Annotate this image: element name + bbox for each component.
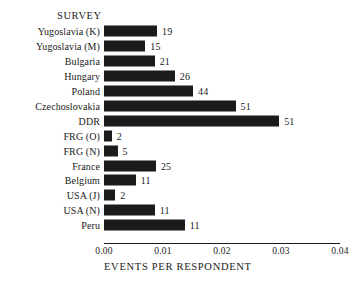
bar-value-label: 11 <box>190 220 200 231</box>
bar-row: Belgium11 <box>0 173 355 188</box>
bar-value-label: 51 <box>241 100 251 111</box>
bar-value-label: 15 <box>150 40 160 51</box>
category-label: Poland <box>72 85 100 96</box>
bar-row: FRG (N)5 <box>0 143 355 158</box>
bar-value-label: 25 <box>161 160 171 171</box>
category-label: Peru <box>81 220 100 231</box>
category-label: USA (J) <box>67 190 100 201</box>
bar-row: USA (J)2 <box>0 188 355 203</box>
bar-row: USA (N)11 <box>0 203 355 218</box>
category-label: Hungary <box>64 70 100 81</box>
category-label: FRG (N) <box>63 145 100 156</box>
x-axis-line <box>104 243 340 244</box>
bar <box>104 190 115 201</box>
bar <box>104 55 155 66</box>
bar-value-label: 19 <box>162 25 172 36</box>
x-tick-label: 0.03 <box>272 246 289 256</box>
bar-row: DDR51 <box>0 113 355 128</box>
bar-value-label: 21 <box>160 55 170 66</box>
bar-value-label: 2 <box>120 190 125 201</box>
bar-value-label: 51 <box>284 115 294 126</box>
bar-row: Hungary26 <box>0 68 355 83</box>
bar <box>104 100 236 111</box>
category-label: Czechoslovakia <box>35 100 100 111</box>
category-label: Yugoslavia (M) <box>36 40 100 51</box>
x-axis-title: EVENTS PER RESPONDENT <box>104 261 252 272</box>
bar <box>104 85 193 96</box>
bar <box>104 145 118 156</box>
category-label: FRG (O) <box>63 130 100 141</box>
bar <box>104 70 175 81</box>
category-label: Yugoslavia (K) <box>38 25 100 36</box>
x-tick-label: 0.01 <box>154 246 171 256</box>
x-tick-label: 0.04 <box>331 246 348 256</box>
bar <box>104 160 156 171</box>
category-label: DDR <box>79 115 100 126</box>
bar <box>104 115 279 126</box>
bar-value-label: 2 <box>117 130 122 141</box>
bar-chart: SURVEY Yugoslavia (K)19Yugoslavia (M)15B… <box>0 0 355 285</box>
bar-row: Peru11 <box>0 218 355 233</box>
bar <box>104 205 155 216</box>
bar <box>104 130 112 141</box>
bar-value-label: 44 <box>198 85 208 96</box>
bar <box>104 40 145 51</box>
bar <box>104 175 136 186</box>
bar <box>104 25 157 36</box>
x-tick-label: 0.02 <box>213 246 230 256</box>
bar-value-label: 26 <box>180 70 190 81</box>
bar <box>104 220 185 231</box>
bar-row: FRG (O)2 <box>0 128 355 143</box>
bar-row: Poland44 <box>0 83 355 98</box>
category-label: USA (N) <box>63 205 100 216</box>
bar-row: Czechoslovakia51 <box>0 98 355 113</box>
bar-value-label: 11 <box>141 175 151 186</box>
category-label: Bulgaria <box>65 55 100 66</box>
category-label: Belgium <box>65 175 100 186</box>
bar-row: Bulgaria21 <box>0 53 355 68</box>
bar-value-label: 11 <box>160 205 170 216</box>
bar-row: Yugoslavia (M)15 <box>0 38 355 53</box>
bar-row: France25 <box>0 158 355 173</box>
bar-value-label: 5 <box>123 145 128 156</box>
x-tick-label: 0.00 <box>95 246 112 256</box>
category-label: France <box>72 160 100 171</box>
bar-row: Yugoslavia (K)19 <box>0 24 355 39</box>
